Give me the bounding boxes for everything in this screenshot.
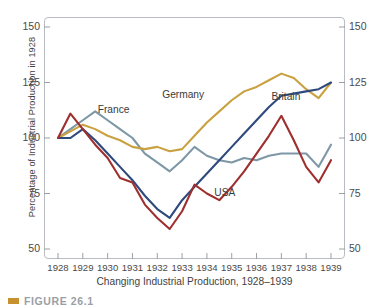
caption-marker-icon	[8, 298, 19, 304]
figure-caption: FIGURE 26.1	[8, 297, 94, 306]
series-line-france	[58, 111, 331, 171]
caption-label: FIGURE 26.1	[24, 297, 94, 306]
x-tick-label: 1939	[314, 262, 348, 273]
y-tick-label-left: 50	[6, 242, 40, 254]
y-tick-label-right: 150	[349, 20, 377, 32]
y-tick-label-right: 75	[349, 187, 377, 199]
series-label-usa: USA	[214, 187, 235, 198]
series-line-britain	[58, 83, 331, 218]
figure-container: Percentage of Industrial Production in 1…	[0, 0, 377, 306]
y-tick-label-left: 100	[6, 131, 40, 143]
y-tick-label-right: 100	[349, 131, 377, 143]
series-label-france: France	[98, 104, 130, 115]
y-tick-label-left: 150	[6, 20, 40, 32]
series-label-britain: Britain	[271, 91, 300, 102]
y-axis-title: Percentage of Industrial Production in 1…	[27, 17, 37, 237]
x-axis-title: Changing Industrial Production, 1928–193…	[44, 276, 345, 287]
axis-tick-marks	[44, 27, 345, 259]
series-label-germany: Germany	[162, 89, 204, 100]
y-tick-label-right: 50	[349, 242, 377, 254]
y-tick-label-right: 125	[349, 76, 377, 88]
y-tick-label-left: 125	[6, 76, 40, 88]
chart-plot-area	[44, 17, 345, 259]
y-tick-label-left: 75	[6, 187, 40, 199]
